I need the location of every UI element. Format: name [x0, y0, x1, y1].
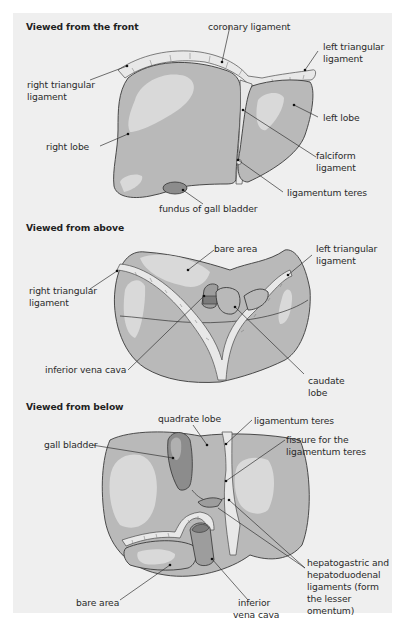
- label-left-triangular-ligament-1: left triangular: [323, 41, 384, 53]
- label-hepato-3: ligaments (form: [307, 581, 379, 593]
- label-coronary-ligament: coronary ligament: [208, 21, 290, 33]
- label-left-triangular-ligament-2: ligament: [323, 53, 363, 65]
- label-right-triangular-above-2: ligament: [29, 297, 69, 309]
- label-hepato-4: the lesser: [307, 593, 351, 605]
- label-right-triangular-above-1: right triangular: [29, 285, 97, 297]
- label-ligamentum-teres-front: ligamentum teres: [287, 187, 367, 199]
- label-left-triangular-above-1: left triangular: [316, 243, 377, 255]
- label-fundus-gall-bladder: fundus of gall bladder: [159, 203, 257, 215]
- front-view-drawing: [90, 26, 318, 204]
- label-falciform-ligament-2: ligament: [316, 162, 356, 174]
- label-fissure-2: ligamentum teres: [286, 446, 366, 458]
- label-right-lobe: right lobe: [46, 141, 89, 153]
- label-gall-bladder: gall bladder: [44, 439, 97, 451]
- label-caudate-lobe-1: caudate: [308, 375, 345, 387]
- label-left-lobe: left lobe: [323, 112, 360, 124]
- label-inferior-vena-cava-above: inferior vena cava: [45, 364, 126, 376]
- label-hepato-1: hepatogastric and: [307, 557, 389, 569]
- below-view-drawing: [92, 420, 309, 600]
- label-right-triangular-ligament-2: ligament: [27, 91, 67, 103]
- label-quadrate-lobe: quadrate lobe: [158, 413, 221, 425]
- label-caudate-lobe-2: lobe: [308, 387, 327, 399]
- label-ivc-below-1: inferior: [238, 597, 270, 609]
- above-view-drawing: [90, 250, 312, 383]
- heading-above: Viewed from above: [26, 222, 124, 233]
- label-ivc-below-2: vena cava: [233, 609, 279, 621]
- label-right-triangular-ligament-1: right triangular: [27, 79, 95, 91]
- label-hepato-5: omentum): [307, 605, 354, 617]
- label-ligamentum-teres-below: ligamentum teres: [254, 415, 334, 427]
- label-hepato-2: hepatoduodenal: [307, 569, 381, 581]
- label-falciform-ligament-1: falciform: [316, 150, 356, 162]
- label-bare-area-above: bare area: [214, 243, 257, 255]
- label-left-triangular-above-2: ligament: [316, 255, 356, 267]
- label-bare-area-below: bare area: [76, 597, 119, 609]
- heading-front: Viewed from the front: [26, 21, 138, 32]
- heading-below: Viewed from below: [26, 401, 124, 412]
- label-fissure-1: fissure for the: [286, 434, 348, 446]
